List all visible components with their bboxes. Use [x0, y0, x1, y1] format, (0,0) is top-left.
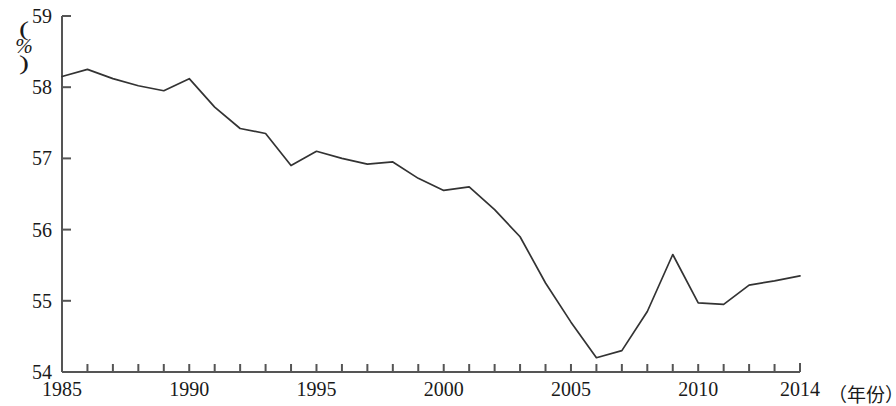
data-series-line: [62, 69, 800, 357]
x-axis-tick-label: 1985: [42, 378, 82, 401]
x-axis-tick-label: 2014: [780, 378, 820, 401]
x-axis-title: （年份）: [828, 380, 896, 406]
y-axis-tick-label: 58: [8, 76, 52, 99]
y-axis-tick-label: 59: [8, 5, 52, 28]
axis-lines: [62, 16, 800, 372]
x-axis-tick-label: 1995: [296, 378, 336, 401]
x-axis-ticks: [62, 364, 800, 372]
y-axis-ticks: [62, 87, 71, 301]
x-axis-tick-label: 2010: [678, 378, 718, 401]
x-axis-tick-label: 1990: [169, 378, 209, 401]
x-axis-tick-label: 2000: [424, 378, 464, 401]
y-axis-tick-label: 57: [8, 147, 52, 170]
x-axis-tick-label: 2005: [551, 378, 591, 401]
y-axis-tick-label: 55: [8, 289, 52, 312]
y-axis-tick-label: 56: [8, 218, 52, 241]
